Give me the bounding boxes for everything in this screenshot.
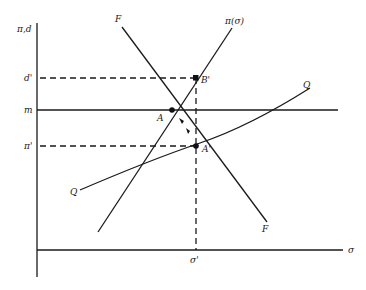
Q-left-label: Q xyxy=(70,187,78,197)
Q-right-label: Q xyxy=(303,80,311,90)
A-label: A xyxy=(156,113,164,123)
A-prime-label: A' xyxy=(201,144,211,154)
B-prime-label: B' xyxy=(200,75,210,85)
economics-diagram: π,d σ d' m π' σ' F F π(σ) Q Q A A' B' xyxy=(0,0,366,290)
x-axis-label: σ xyxy=(348,245,355,255)
F-bottom-label: F xyxy=(261,224,269,234)
adjustment-arrow-2 xyxy=(186,128,190,134)
pi-prime-label: π' xyxy=(23,141,32,151)
point-B-prime xyxy=(193,75,199,81)
pi-sigma-line xyxy=(98,28,232,232)
d-prime-label: d' xyxy=(24,73,32,83)
point-A-prime xyxy=(193,143,199,149)
m-label: m xyxy=(24,105,33,115)
adjustment-arrow-1 xyxy=(179,118,184,124)
Q-curve xyxy=(80,88,310,190)
y-axis-label: π,d xyxy=(16,24,32,34)
pi-sigma-label: π(σ) xyxy=(224,16,245,26)
F-top-label: F xyxy=(114,14,122,24)
sigma-prime-label: σ' xyxy=(190,255,199,265)
point-A xyxy=(169,107,175,113)
